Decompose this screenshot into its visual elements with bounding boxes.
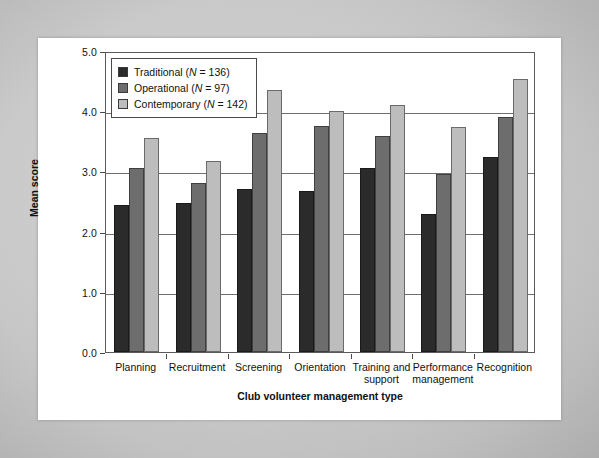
bar (421, 214, 436, 352)
y-axis-label: Mean score (28, 159, 40, 217)
x-tick-mark (166, 354, 167, 359)
bar (360, 168, 375, 352)
x-tick-mark (289, 354, 290, 359)
legend-item: Operational (N = 97) (118, 80, 248, 96)
x-tick-label: Planning (105, 361, 166, 373)
y-tick-label: 0.0 (63, 347, 97, 359)
bar (483, 157, 498, 352)
bar (329, 111, 344, 352)
bar (513, 79, 528, 352)
bar (390, 105, 405, 352)
bar (191, 183, 206, 352)
bar (436, 174, 451, 352)
legend-swatch-traditional (118, 67, 128, 77)
bar (129, 168, 144, 352)
bar (314, 126, 329, 352)
x-tick-label: Orientation (289, 361, 350, 373)
bar (375, 136, 390, 352)
x-tick-label: Performance management (412, 361, 473, 385)
y-tick-label: 5.0 (63, 46, 97, 58)
x-tick-label: Screening (228, 361, 289, 373)
bar (451, 127, 466, 352)
legend-swatch-operational (118, 83, 128, 93)
bar-chart: Mean score 0.01.02.03.04.05.0 Traditiona… (38, 38, 561, 420)
x-tick-mark (228, 354, 229, 359)
bar (299, 191, 314, 352)
bar (237, 189, 252, 352)
bar (267, 90, 282, 352)
legend-label-operational: Operational (N = 97) (134, 82, 229, 94)
bar (176, 203, 191, 352)
legend-item: Traditional (N = 136) (118, 64, 248, 80)
x-tick-mark (351, 354, 352, 359)
legend-label-traditional: Traditional (N = 136) (134, 66, 230, 78)
figure-page: Mean score 0.01.02.03.04.05.0 Traditiona… (0, 0, 599, 458)
legend-item: Contemporary (N = 142) (118, 96, 248, 112)
legend-swatch-contemporary (118, 99, 128, 109)
y-tick-label: 3.0 (63, 166, 97, 178)
legend-label-contemporary: Contemporary (N = 142) (134, 98, 248, 110)
bar (498, 117, 513, 352)
y-tick-label: 1.0 (63, 287, 97, 299)
x-tick-label: Recognition (474, 361, 535, 373)
y-tick-label: 4.0 (63, 106, 97, 118)
plot-area: Traditional (N = 136) Operational (N = 9… (105, 52, 535, 353)
x-tick-mark (474, 354, 475, 359)
x-tick-label: Training and support (351, 361, 412, 385)
x-tick-mark (412, 354, 413, 359)
legend: Traditional (N = 136) Operational (N = 9… (111, 58, 257, 118)
x-tick-label: Recruitment (166, 361, 227, 373)
x-axis-label: Club volunteer management type (105, 390, 535, 402)
bar (206, 161, 221, 352)
figure-white-canvas: Mean score 0.01.02.03.04.05.0 Traditiona… (38, 38, 561, 420)
bar (252, 133, 267, 352)
bar (114, 205, 129, 352)
y-tick-mark (100, 353, 105, 354)
bar (144, 138, 159, 352)
y-tick-label: 2.0 (63, 227, 97, 239)
